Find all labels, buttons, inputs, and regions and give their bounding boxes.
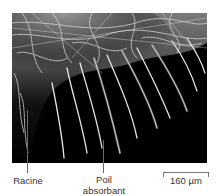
root-hair-label: Poil absorbant [76,174,132,196]
root-label-text: Racine [13,175,43,186]
scale-label: 160 µm [163,175,209,186]
root-hair-label-line2: absorbant [76,185,132,196]
root-hair-leader-line [103,140,104,173]
scale-label-text: 160 µm [170,175,202,186]
root-hair-label-line1: Poil [76,174,132,185]
root-leader-line [27,110,28,173]
micrograph-image [12,13,207,163]
root-label: Racine [6,175,50,186]
